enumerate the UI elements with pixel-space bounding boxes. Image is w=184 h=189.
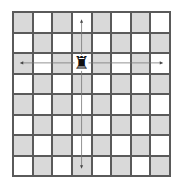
board-square[interactable]: [13, 115, 33, 136]
board-square[interactable]: [72, 12, 92, 33]
board-square[interactable]: [33, 12, 53, 33]
board-square[interactable]: [111, 156, 131, 177]
board-square[interactable]: [52, 135, 72, 156]
board-square[interactable]: [111, 12, 131, 33]
board-square[interactable]: [150, 74, 170, 95]
board-square[interactable]: [33, 53, 53, 74]
board-square[interactable]: [72, 33, 92, 54]
black-rook-icon[interactable]: ♜: [73, 54, 89, 72]
board-square[interactable]: [111, 135, 131, 156]
board-square[interactable]: [72, 156, 92, 177]
board-square[interactable]: [13, 74, 33, 95]
board-square[interactable]: [92, 74, 112, 95]
board-square[interactable]: [111, 53, 131, 74]
board-square[interactable]: [13, 53, 33, 74]
board-square[interactable]: [72, 74, 92, 95]
board-square[interactable]: [33, 74, 53, 95]
board-square[interactable]: [131, 12, 151, 33]
board-square[interactable]: [150, 12, 170, 33]
board-square[interactable]: [150, 53, 170, 74]
board-square[interactable]: [72, 115, 92, 136]
board-square[interactable]: [92, 135, 112, 156]
board-square[interactable]: [131, 115, 151, 136]
board-square[interactable]: [92, 115, 112, 136]
board-square[interactable]: [13, 156, 33, 177]
board-square[interactable]: [111, 94, 131, 115]
board-square[interactable]: [131, 53, 151, 74]
board-square[interactable]: [13, 33, 33, 54]
board-square[interactable]: [131, 94, 151, 115]
board-square[interactable]: [131, 135, 151, 156]
board-square[interactable]: [111, 74, 131, 95]
board-square[interactable]: [111, 115, 131, 136]
board-square[interactable]: [13, 12, 33, 33]
board-square[interactable]: [150, 156, 170, 177]
board-square[interactable]: [33, 135, 53, 156]
board-square[interactable]: [92, 94, 112, 115]
board-square[interactable]: [92, 33, 112, 54]
board-square[interactable]: [33, 156, 53, 177]
board-square[interactable]: [72, 94, 92, 115]
board-square[interactable]: [52, 33, 72, 54]
board-square[interactable]: [13, 135, 33, 156]
board-square[interactable]: [52, 74, 72, 95]
board-square[interactable]: [52, 94, 72, 115]
board-square[interactable]: [33, 94, 53, 115]
board-square[interactable]: [131, 33, 151, 54]
board-square[interactable]: [150, 135, 170, 156]
board-square[interactable]: [72, 135, 92, 156]
board-square[interactable]: [52, 53, 72, 74]
board-square[interactable]: [131, 156, 151, 177]
board-square[interactable]: [150, 115, 170, 136]
board-square[interactable]: [92, 156, 112, 177]
board-square[interactable]: [33, 115, 53, 136]
board-square[interactable]: [13, 94, 33, 115]
board-square[interactable]: [92, 53, 112, 74]
chess-board: [12, 11, 171, 177]
board-square[interactable]: [52, 156, 72, 177]
board-square[interactable]: [52, 115, 72, 136]
board-square[interactable]: [33, 33, 53, 54]
board-square[interactable]: [150, 33, 170, 54]
board-square[interactable]: [150, 94, 170, 115]
board-square[interactable]: [131, 74, 151, 95]
board-square[interactable]: [92, 12, 112, 33]
board-square[interactable]: [111, 33, 131, 54]
board-square[interactable]: [52, 12, 72, 33]
